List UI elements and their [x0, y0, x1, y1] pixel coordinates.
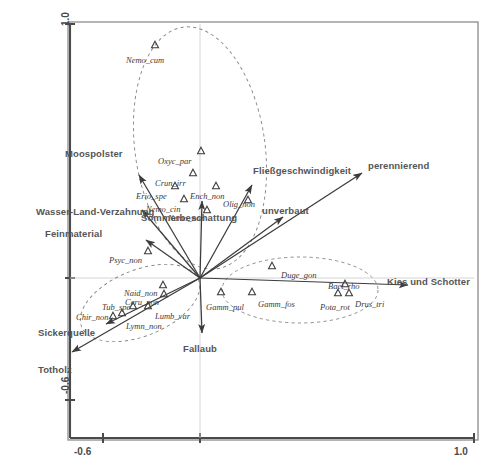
species-marker-naid_non — [160, 281, 167, 288]
env-label-unverbaut: unverbaut — [262, 205, 309, 216]
species-marker-crun_irr — [190, 169, 197, 176]
species-label-drus_tri: Drus_tri — [355, 299, 384, 309]
env-label-sommerbeschattung: Sommerbeschattung — [141, 212, 237, 223]
species-label-crun_irr: Crun_irr — [155, 178, 186, 188]
species-marker-gamm_pul — [218, 288, 225, 295]
y-axis-max-label: 1.0 — [60, 12, 71, 26]
species-label-gamm_pul: Gamm_pul — [206, 302, 244, 312]
species-label-duge_gon: Duge_gon — [281, 270, 316, 280]
env-vector-perennierend — [200, 173, 362, 278]
species-label-ench_non: Ench_non — [190, 191, 224, 201]
species-marker-duge_gon — [269, 262, 276, 269]
ordination-plot-figure: Nemo_cumOxyc_parCrun_irrErio_speEnch_non… — [0, 0, 498, 471]
x-axis-max-label: 1.0 — [454, 446, 468, 457]
species-label-tub_spe: Tub_spe — [102, 302, 130, 312]
env-label-sickerquelle: Sickerquelle — [38, 327, 95, 338]
species-label-nemo_cum: Nemo_cum — [126, 55, 164, 65]
species-label-lumb_var: Lumb_var — [155, 311, 190, 321]
env-label-flie-geschwindigkeit: Fließgeschwindigkeit — [253, 165, 351, 176]
species-marker-nemo_cin — [181, 195, 188, 202]
species-label-olig_non: Olig_non — [223, 199, 255, 209]
species-label-baet_rho: Baet_rho — [328, 281, 359, 291]
species-marker-gamm_fos — [249, 288, 256, 295]
species-label-chir_non: Chir_non — [76, 312, 109, 322]
species-marker-oxyc_par — [198, 147, 205, 154]
species-label-gamm_fos: Gamm_fos — [258, 299, 295, 309]
species-label-erio_spe: Erio_spe — [136, 191, 167, 201]
env-label-fallaub: Fallaub — [183, 343, 217, 354]
species-label-lymn_non: Lymn_non — [126, 321, 162, 331]
env-label-wasser-land-verzahnung: Wasser-Land-Verzahnung — [36, 206, 155, 217]
env-label-perennierend: perennierend — [368, 160, 429, 171]
species-marker-ench_non — [213, 182, 220, 189]
env-label-totholz: Totholz — [38, 364, 72, 375]
env-label-kies-und-schotter: Kies und Schotter — [387, 276, 470, 287]
species-marker-nemo_cum — [152, 41, 159, 48]
species-label-oxyc_par: Oxyc_par — [158, 156, 192, 166]
env-label-feinmaterial: Feinmaterial — [45, 228, 102, 239]
species-label-pota_rot: Pota_rot — [320, 302, 350, 312]
x-axis-min-label: -0.6 — [74, 446, 91, 457]
y-axis-min-label: -0.6 — [60, 377, 71, 394]
species-marker-psyc_non — [145, 247, 152, 254]
species-marker-chir_non — [110, 312, 117, 319]
env-label-moospolster: Moospolster — [65, 148, 123, 159]
species-label-psyc_non: Psyc_non — [109, 255, 142, 265]
